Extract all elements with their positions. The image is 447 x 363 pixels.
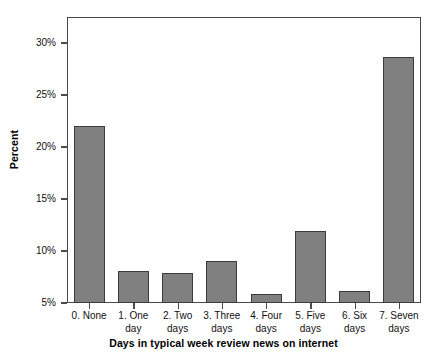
y-tick-label: 5% <box>0 296 56 309</box>
x-tick-label: 1. One day <box>111 310 155 335</box>
x-axis-title: Days in typical week review news on inte… <box>0 337 447 349</box>
bar <box>162 273 193 303</box>
x-tick-label: 0. None <box>67 310 111 323</box>
x-tick-mark <box>266 303 267 309</box>
bar <box>295 231 326 303</box>
x-tick-label: 3. Three days <box>200 310 244 335</box>
bar-chart: Percent 5%10%15%20%25%30% 0. None1. One … <box>0 0 447 363</box>
x-tick-label: 7. Seven days <box>377 310 421 335</box>
bar <box>383 57 414 303</box>
bar <box>206 261 237 303</box>
y-tick-label: 20% <box>0 140 56 153</box>
y-tick-label: 25% <box>0 88 56 101</box>
x-tick-label: 5. Five days <box>288 310 332 335</box>
x-tick-mark <box>310 303 311 309</box>
x-tick-mark <box>133 303 134 309</box>
x-tick-mark <box>222 303 223 309</box>
x-tick-mark <box>178 303 179 309</box>
y-tick-label: 15% <box>0 192 56 205</box>
bar <box>251 294 282 303</box>
x-tick-mark <box>355 303 356 309</box>
x-tick-label: 6. Six days <box>333 310 377 335</box>
bar <box>74 126 105 303</box>
bars-layer <box>67 17 421 303</box>
bar <box>339 291 370 303</box>
x-tick-mark <box>89 303 90 309</box>
x-tick-label: 2. Two days <box>156 310 200 335</box>
x-tick-mark <box>399 303 400 309</box>
x-tick-label: 4. Four days <box>244 310 288 335</box>
y-tick-label: 10% <box>0 244 56 257</box>
y-tick-label: 30% <box>0 36 56 49</box>
bar <box>118 271 149 303</box>
